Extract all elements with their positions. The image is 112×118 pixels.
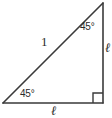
angle-label-bottom-left: 45° <box>20 89 35 99</box>
side-label-vertical-leg: ℓ <box>105 41 110 54</box>
side-label-hypotenuse: 1 <box>41 35 48 48</box>
right-angle-marker-icon <box>93 93 103 103</box>
angle-label-top-right: 45° <box>80 22 95 32</box>
side-label-horizontal-leg: ℓ <box>51 104 56 117</box>
hypotenuse-line <box>3 3 103 103</box>
geometry-figure: 45° 45° 1 ℓ ℓ <box>0 0 112 118</box>
triangle-drawing <box>0 0 112 118</box>
